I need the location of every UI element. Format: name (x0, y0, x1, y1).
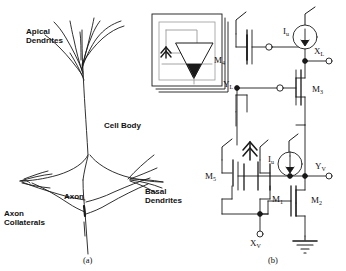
label-basal-dendrites: Basal Dendrites (145, 187, 182, 205)
iu-lower-subscript: u (271, 159, 274, 165)
node-yl (235, 86, 240, 145)
ground-icon (293, 236, 317, 253)
m1-letter: M (272, 194, 280, 204)
vdd-chevron-icon (243, 142, 257, 160)
label-m5: M5 (205, 172, 216, 184)
m4-letter: M (214, 55, 222, 65)
m3-gate-bubble (237, 85, 283, 91)
m5-letter: M (205, 171, 213, 181)
transistor-m4 (236, 30, 266, 126)
label-node-yv: YV (315, 162, 326, 174)
label-node-yl: YL (223, 80, 233, 92)
xv-subscript: V (257, 243, 261, 249)
label-m4: M4 (214, 56, 225, 68)
xl-subscript: L (321, 51, 325, 57)
vdd-rail-m5 (222, 139, 232, 160)
label-m2: M2 (311, 196, 322, 208)
caption-panel-a: (a) (83, 255, 92, 265)
vdd-rail-iu-upper (305, 7, 315, 25)
figure-root: Apical Dendrites Cell Body Axon Axon Col… (0, 0, 346, 271)
m3-letter: M (312, 84, 320, 94)
m4-subscript: 4 (222, 60, 225, 66)
yl-subscript: L (230, 84, 234, 90)
m1-subscript: 1 (280, 199, 283, 205)
soma-outline (20, 155, 163, 182)
caption-panel-b: (b) (268, 255, 278, 265)
node-xv (257, 201, 268, 237)
iu-upper-subscript: u (286, 31, 289, 37)
label-iu-lower: Iu (268, 155, 274, 167)
label-cell-body: Cell Body (104, 121, 141, 130)
transistor-m3 (283, 64, 305, 125)
m3-subscript: 3 (320, 89, 323, 95)
label-axon-collaterals: Axon Collaterals (4, 209, 45, 227)
m5-subscript: 5 (213, 176, 216, 182)
label-m3: M3 (312, 85, 323, 97)
axon-hillock-mark (84, 206, 85, 216)
current-source-iu-lower (278, 152, 302, 176)
label-m1: M1 (272, 195, 283, 207)
label-axon: Axon (64, 192, 84, 201)
vdd-rail-m1 (260, 140, 268, 160)
yv-subscript: V (322, 166, 326, 172)
label-node-xl: XL (314, 47, 324, 59)
label-node-xv: XV (250, 239, 261, 251)
vdd-rail-iu-lower (289, 134, 298, 152)
label-apical-dendrites: Apical Dendrites (26, 27, 63, 45)
label-iu-upper: Iu (283, 27, 289, 39)
m2-subscript: 2 (319, 200, 322, 206)
m2-letter: M (311, 195, 319, 205)
vdd-rail-m4 (236, 12, 246, 34)
